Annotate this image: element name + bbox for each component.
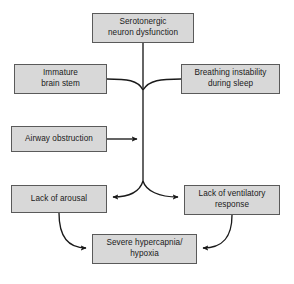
edge-immature-to-trunk: [107, 79, 143, 90]
node-label: Serotonergic neuron dysfunction: [108, 17, 178, 39]
node-airway-obstruction: Airway obstruction: [11, 126, 107, 152]
node-label: Severe hypercapnia/ hypoxia: [106, 238, 182, 260]
node-lack-of-arousal: Lack of arousal: [11, 185, 107, 213]
edge-arousal-to-hypercapnia: [59, 213, 86, 248]
flow-diagram: Serotonergic neuron dysfunction Immature…: [0, 0, 294, 284]
edge-breathing-to-trunk: [143, 79, 181, 90]
node-serotonergic-neuron-dysfunction: Serotonergic neuron dysfunction: [92, 13, 194, 43]
node-lack-of-ventilatory-response: Lack of ventilatory response: [184, 185, 280, 215]
node-label: Breathing instability during sleep: [194, 68, 266, 90]
edge-trunk-to-arousal: [113, 181, 143, 197]
node-label: Airway obstruction: [25, 134, 93, 145]
edge-trunk-to-ventilatory: [143, 181, 178, 197]
node-breathing-instability-during-sleep: Breathing instability during sleep: [181, 64, 280, 94]
page-header-fragment: [6, 0, 156, 9]
node-immature-brain-stem: Immature brain stem: [14, 64, 107, 94]
node-label: Lack of ventilatory response: [199, 189, 266, 211]
edge-ventilatory-to-hypercapnia: [203, 215, 232, 248]
node-severe-hypercapnia-hypoxia: Severe hypercapnia/ hypoxia: [92, 234, 197, 264]
node-label: Immature brain stem: [41, 68, 80, 90]
node-label: Lack of arousal: [31, 194, 87, 205]
